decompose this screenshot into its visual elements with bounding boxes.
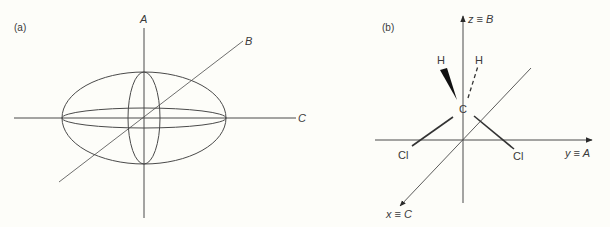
axis-b-line bbox=[59, 41, 243, 182]
panel-a-tag: (a) bbox=[14, 22, 26, 33]
axis-c-label: C bbox=[298, 112, 306, 124]
panel-a-ellipsoid bbox=[14, 28, 296, 218]
bond-c-cl-left bbox=[412, 117, 453, 146]
bond-c-h-wedge bbox=[440, 68, 457, 100]
panel-b-tag: (b) bbox=[382, 22, 394, 33]
panel-b-molecule bbox=[375, 16, 592, 206]
chlorine-left-label: Cl bbox=[398, 149, 408, 161]
axis-a-label: A bbox=[139, 13, 147, 25]
bond-c-h-dash bbox=[468, 66, 478, 98]
bond-c-cl-right bbox=[474, 116, 514, 149]
axis-b-label: B bbox=[245, 35, 252, 47]
hydrogen-dash-label: H bbox=[475, 54, 483, 66]
x-axis bbox=[400, 68, 531, 206]
hydrogen-wedge-label: H bbox=[437, 54, 445, 66]
z-axis-label: z ≡ B bbox=[467, 13, 493, 25]
diagram-canvas: (a) A B C (b) z ≡ B y ≡ A x ≡ C C H H Cl… bbox=[0, 0, 610, 227]
carbon-label: C bbox=[459, 103, 467, 115]
y-axis-label: y ≡ A bbox=[564, 147, 590, 159]
x-axis-label: x ≡ C bbox=[385, 208, 412, 220]
chlorine-right-label: Cl bbox=[513, 150, 523, 162]
